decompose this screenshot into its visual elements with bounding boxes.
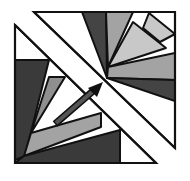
diagram-svg: [0, 0, 190, 181]
diagram-canvas: [0, 0, 190, 181]
